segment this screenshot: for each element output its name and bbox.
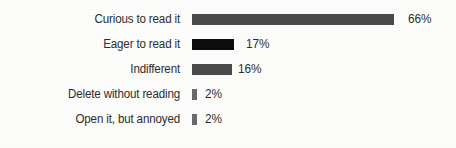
bar-row-plot-area: 2% [180,82,456,107]
bar [192,89,197,100]
bar [192,14,394,25]
bar-value-label: 17% [246,38,269,51]
bar-chart-row: Indifferent16% [0,57,456,82]
bar-chart: Curious to read it66%Eager to read it17%… [0,0,456,148]
bar [192,114,197,125]
bar-chart-rows: Curious to read it66%Eager to read it17%… [0,0,456,148]
bar-row-plot-area: 2% [180,107,456,132]
bar-chart-row: Delete without reading2% [0,82,456,107]
bar-row-label: Delete without reading [11,88,180,101]
bar-row-label: Eager to read it [11,38,180,51]
bar-value-label: 16% [238,63,261,76]
bar-row-plot-area: 17% [180,32,456,57]
bar-value-label: 66% [408,13,431,26]
bar-row-plot-area: 16% [180,57,456,82]
bar-value-label: 2% [205,88,222,101]
bar-row-plot-area: 66% [180,7,456,32]
bar-chart-row: Open it, but annoyed2% [0,107,456,132]
bar-value-label: 2% [205,113,222,126]
bar [192,64,232,75]
bar-chart-row: Eager to read it17% [0,32,456,57]
bar-row-label: Open it, but annoyed [11,113,180,126]
bar-row-label: Indifferent [11,63,180,76]
bar-chart-row: Curious to read it66% [0,7,456,32]
bar [192,39,234,50]
bar-row-label: Curious to read it [11,13,180,26]
